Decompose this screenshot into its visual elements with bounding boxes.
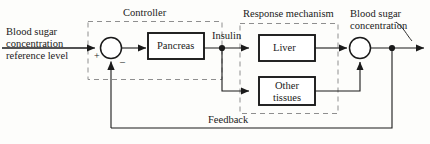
insulin-branch-to-other-tissues [222,48,249,91]
output-label-line1: Blood sugar [350,8,426,20]
output-junction-circle [350,38,371,59]
other-tissues-label-line1: Other [261,80,313,92]
block-diagram-figure: Blood sugar concentration reference leve… [0,0,430,144]
reference-input-label-line1: Blood sugar [6,26,90,38]
error-junction-circle [101,38,122,59]
other-tissues-output-line [315,62,360,91]
feedback-signal-label: Feedback [208,114,248,125]
output-label-line2: concentration [350,20,426,32]
insulin-signal-label: Insulin [212,30,241,41]
controller-group-label: Controller [123,7,166,18]
error-junction-plus-sign: + [94,51,100,62]
pancreas-block-label: Pancreas [157,40,194,51]
other-tissues-block-label: Other tissues [261,80,313,104]
reference-input-label: Blood sugar concentration reference leve… [6,26,90,61]
liver-block-label: Liver [273,42,296,53]
other-tissues-label-line2: tissues [261,92,313,104]
reference-input-label-line2: concentration [6,38,90,50]
error-junction-minus-sign: – [120,57,125,68]
response-mechanism-group-label: Response mechanism [243,8,334,19]
feedback-path [111,48,392,128]
reference-input-label-line3: reference level [6,50,90,62]
output-label: Blood sugar concentration [350,8,426,32]
